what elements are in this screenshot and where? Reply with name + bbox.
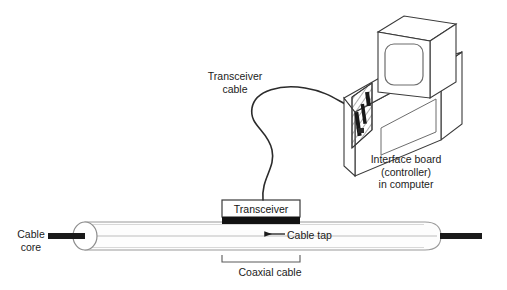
board-chip-4 <box>358 128 364 133</box>
cable-core-right <box>440 233 482 239</box>
computer-group <box>344 16 462 176</box>
network-tap-diagram: Cable core Transceiver cable Transceiver… <box>0 0 507 290</box>
coaxial-cable-brace <box>222 255 300 262</box>
diagram-canvas <box>0 0 507 290</box>
transceiver-cable-group <box>252 87 345 200</box>
cable-core-label: Cable core <box>8 228 54 253</box>
cable-tap-label: Cable tap <box>287 229 357 242</box>
transceiver-label: Transceiver <box>226 203 296 215</box>
monitor-screen <box>385 44 423 85</box>
coaxial-cable-label: Coaxial cable <box>222 266 318 279</box>
monitor-group <box>378 16 456 98</box>
transceiver-cable-label: Transceiver cable <box>196 70 274 95</box>
transceiver-contact-band <box>222 217 300 224</box>
interface-board-label: Interface board (controller) in computer <box>348 153 464 191</box>
brace-path <box>222 255 300 262</box>
transceiver-cable-path <box>252 87 345 200</box>
coaxial-cable-group <box>48 222 482 250</box>
